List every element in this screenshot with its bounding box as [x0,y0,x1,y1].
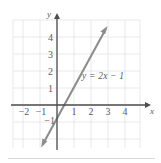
y-axis [54,13,60,150]
x-tick-label-2: 2 [84,107,98,117]
y-tick-label-neg1: −1 [41,116,55,126]
y-axis-label: y [47,10,51,19]
x-axis-label: x [150,107,154,116]
x-tick-label-3: 3 [101,107,115,117]
x-tick-label-4: 4 [118,107,132,117]
y-axis-arrow [54,13,60,19]
y-tick-label-4: 4 [42,33,53,43]
line-arrow-up [100,26,107,34]
equation-annotation: y = 2x − 1 [82,72,124,82]
footer-divider [8,158,155,159]
x-tick-label-1: 1 [67,107,81,117]
line-arrow-down [41,139,47,148]
y-tick-label-1: 1 [42,84,53,94]
y-tick-label-2: 2 [42,67,53,77]
coordinate-plane-figure: y x −2 −1 1 2 3 4 4 3 2 1 −1 y = 2x − 1 [0,0,161,163]
x-tick-label-neg2: −2 [16,107,32,117]
graph-canvas [0,0,161,163]
y-tick-label-3: 3 [42,50,53,60]
